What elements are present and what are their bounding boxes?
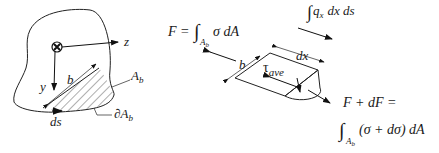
svg-text:∫: ∫ <box>337 119 346 143</box>
cross-section <box>14 9 130 115</box>
width-b-label: b <box>67 72 74 87</box>
shear-stress-label: τave <box>263 60 284 78</box>
force-equation: F = <box>167 24 190 39</box>
area-label: Ab <box>130 68 144 85</box>
svg-text:∫: ∫ <box>306 2 313 23</box>
svg-text:Ab: Ab <box>345 136 356 148</box>
svg-text:Ab: Ab <box>199 37 210 49</box>
force-increment-equation: F + dF = <box>342 95 397 110</box>
axis-z-label: z <box>123 34 129 49</box>
boundary-label: ∂Ab <box>114 106 133 123</box>
svg-text:σ dA: σ dA <box>213 24 239 39</box>
element-dx-label: dx <box>296 48 309 63</box>
shear-flow-label: qxdx ds <box>313 3 355 20</box>
axis-y-label: y <box>38 79 46 94</box>
ds-label: ds <box>50 114 62 129</box>
element-b-label: b <box>239 57 246 72</box>
shear-flow-diagram: z y b Ab ∂Ab ds F = ∫ Ab σ dA ∫ qxdx ds … <box>0 0 439 153</box>
svg-text:(σ + dσ) dA: (σ + dσ) dA <box>359 122 425 138</box>
